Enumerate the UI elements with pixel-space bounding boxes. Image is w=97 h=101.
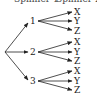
branch-2: 2 X Y Z: [30, 37, 81, 66]
arrow-2-to-x: [38, 42, 72, 52]
header-right-label: Spinner 2: [56, 0, 97, 4]
branch-3: 3 X Y Z: [30, 66, 81, 95]
node-2-label: 2: [30, 47, 36, 57]
leaf-1-z: Z: [74, 26, 80, 36]
arrow-root-to-1: [5, 23, 28, 52]
arrow-3-to-z: [38, 81, 72, 90]
leaf-3-x: X: [74, 66, 81, 76]
leaf-3-z: Z: [74, 85, 80, 95]
node-3-label: 3: [30, 76, 36, 86]
arrow-3-to-x: [38, 71, 72, 81]
leaf-2-z: Z: [74, 56, 80, 66]
arrow-root-to-3: [5, 52, 28, 80]
branch-1: 1 X Y Z: [30, 7, 81, 36]
header-left-label: Spinner 1: [14, 0, 59, 4]
leaf-2-x: X: [74, 37, 81, 47]
arrow-1-to-z: [38, 21, 72, 30]
root-branches: [5, 23, 28, 80]
tree-diagram: Spinner 1 Spinner 2 1 X Y Z 2 X Y Z 3 X …: [0, 0, 97, 101]
arrow-2-to-z: [38, 52, 72, 61]
node-1-label: 1: [30, 16, 36, 26]
leaf-1-y: Y: [73, 16, 81, 26]
arrow-1-to-x: [38, 12, 72, 21]
